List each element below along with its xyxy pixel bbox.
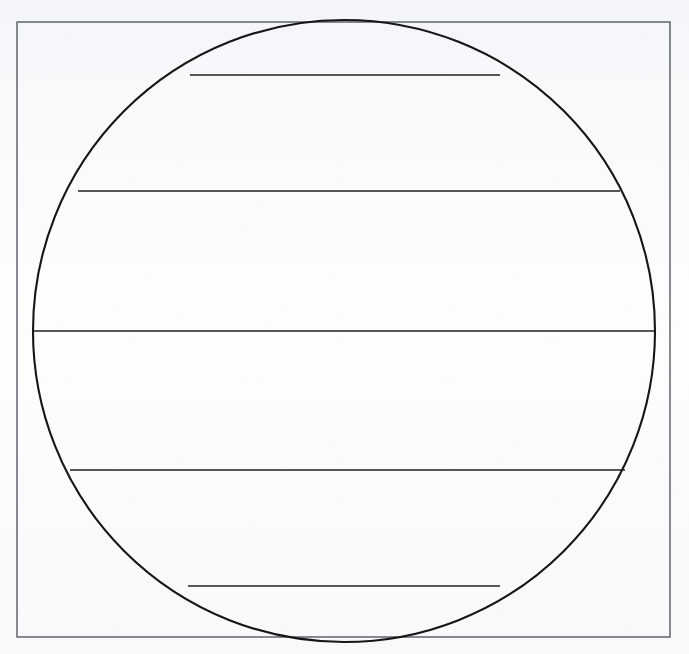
bounding-rectangle (17, 22, 670, 637)
geometric-figure (0, 0, 689, 654)
chord-lines-group (33, 75, 655, 586)
scanned-figure-page (0, 0, 689, 654)
